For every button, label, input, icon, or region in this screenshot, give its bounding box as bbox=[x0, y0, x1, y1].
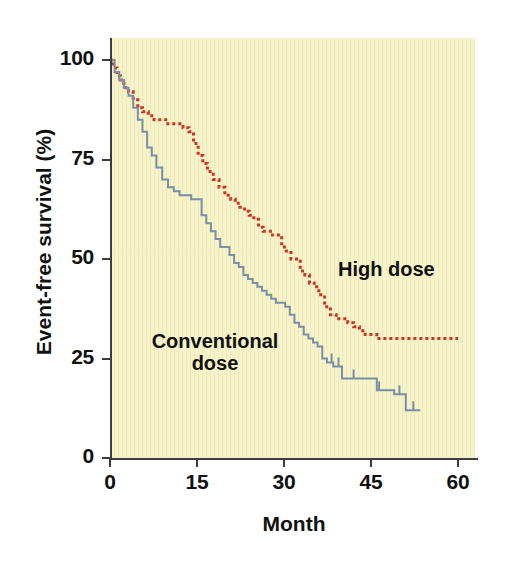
x-tick-0 bbox=[109, 458, 111, 467]
x-tick-label-30: 30 bbox=[254, 470, 314, 494]
series-label-high-dose: High dose bbox=[338, 258, 435, 280]
x-axis-title: Month bbox=[110, 512, 478, 536]
x-tick-label-45: 45 bbox=[341, 470, 401, 494]
survival-chart-figure: 0255075100 015304560 Month Event-free su… bbox=[0, 0, 507, 572]
y-tick-25 bbox=[102, 358, 111, 360]
x-axis-line bbox=[110, 458, 478, 460]
x-tick-label-0: 0 bbox=[80, 470, 140, 494]
y-tick-75 bbox=[102, 159, 111, 161]
series-curve-high-dose bbox=[110, 60, 458, 339]
x-tick-30 bbox=[283, 458, 285, 467]
y-tick-50 bbox=[102, 258, 111, 260]
x-tick-45 bbox=[370, 458, 372, 467]
y-tick-label-0: 0 bbox=[40, 444, 94, 468]
y-axis-title: Event-free survival (%) bbox=[32, 62, 56, 422]
x-tick-label-15: 15 bbox=[167, 470, 227, 494]
y-axis-line bbox=[110, 38, 112, 458]
x-tick-15 bbox=[196, 458, 198, 467]
x-tick-label-60: 60 bbox=[428, 470, 488, 494]
series-label-conventional-dose: Conventional dose bbox=[130, 330, 300, 375]
y-tick-100 bbox=[102, 59, 111, 61]
x-tick-60 bbox=[457, 458, 459, 467]
